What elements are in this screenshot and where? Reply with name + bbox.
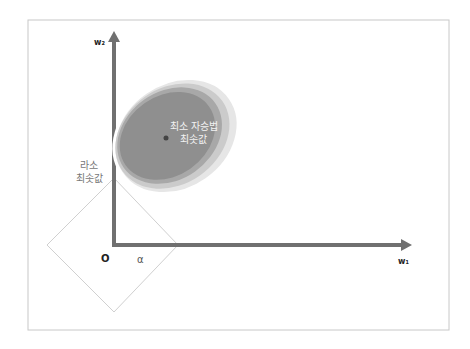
regularization-diagram [0,0,470,349]
origin-label: O [101,253,110,265]
least-squares-label-line1: 최소 자승법 [170,121,218,133]
alpha-label: α [137,254,144,266]
lasso-label-line1: 라소 [80,160,98,172]
y-axis-label: w₂ [94,37,105,49]
diagram-canvas: w₂ w₁ O α 최소 자승법 최솟값 라소 최솟값 [0,0,470,349]
x-axis-label: w₁ [398,256,409,268]
least-squares-label-line2: 최솟값 [180,134,207,146]
least-squares-min-dot [164,136,169,141]
lasso-label-line2: 최솟값 [76,173,103,185]
